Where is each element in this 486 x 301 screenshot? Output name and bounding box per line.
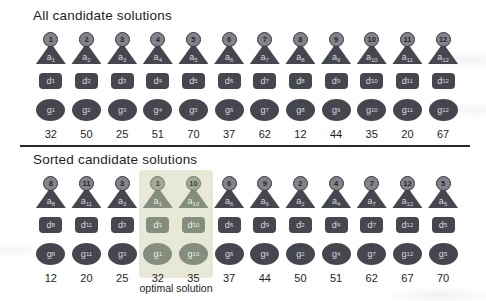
objective-value: 50 bbox=[80, 128, 92, 140]
candidate-id-badge: 11 bbox=[400, 32, 415, 47]
agent-label: a8 bbox=[285, 53, 315, 63]
agent-label: a10 bbox=[178, 197, 208, 207]
candidate-column: 11a11d′11g1120 bbox=[69, 176, 105, 284]
agent-label: a2 bbox=[71, 53, 101, 63]
candidate-row-sorted: 8a8d′8g81211a11d′11g11203a3d′3g3251a1d′1… bbox=[33, 176, 461, 284]
genotype-ellipse: g4 bbox=[322, 243, 351, 265]
candidate-column: 6a6d′6g637 bbox=[211, 176, 247, 284]
genotype-ellipse: g5 bbox=[429, 243, 458, 265]
candidate-id-badge: 3 bbox=[115, 32, 130, 47]
decision-box: d′3 bbox=[111, 217, 134, 233]
agent-label: a1 bbox=[143, 197, 173, 207]
objective-value: 70 bbox=[437, 272, 449, 284]
section-title-all-candidates: All candidate solutions bbox=[33, 8, 172, 23]
decision-box: d′5 bbox=[182, 73, 205, 89]
agent-label: a7 bbox=[250, 53, 280, 63]
decision-box: d′4 bbox=[146, 73, 169, 89]
candidate-id-badge: 6 bbox=[222, 32, 237, 47]
decision-box: d′1 bbox=[146, 217, 169, 233]
genotype-ellipse: g2 bbox=[72, 99, 101, 121]
decision-box: d′12 bbox=[432, 73, 455, 89]
decision-box: d′2 bbox=[289, 217, 312, 233]
genotype-ellipse: g10 bbox=[357, 99, 386, 121]
candidate-column: 2a2d′2g250 bbox=[69, 32, 105, 140]
agent-label: a6 bbox=[214, 197, 244, 207]
agent-label: a8 bbox=[36, 197, 66, 207]
candidate-column: 8a8d′8g812 bbox=[33, 176, 69, 284]
candidate-column: 10a10d′10g1035 bbox=[176, 176, 212, 284]
objective-value: 20 bbox=[401, 128, 413, 140]
genotype-ellipse: g8 bbox=[36, 243, 65, 265]
agent-label: a4 bbox=[143, 53, 173, 63]
candidate-column: 1a1d′1g132 bbox=[33, 32, 69, 140]
objective-value: 12 bbox=[45, 272, 57, 284]
genotype-ellipse: g8 bbox=[286, 99, 315, 121]
candidate-row-all: 1a1d′1g1322a2d′2g2503a3d′3g3254a4d′4g451… bbox=[33, 32, 461, 140]
genotype-ellipse: g7 bbox=[357, 243, 386, 265]
candidate-id-badge: 1 bbox=[150, 176, 165, 191]
decision-box: d′11 bbox=[396, 73, 419, 89]
candidate-column: 5a5d′5g570 bbox=[176, 32, 212, 140]
candidate-id-badge: 9 bbox=[257, 176, 272, 191]
genotype-ellipse: g6 bbox=[215, 243, 244, 265]
agent-label: a12 bbox=[392, 197, 422, 207]
genotype-ellipse: g3 bbox=[108, 243, 137, 265]
section-divider bbox=[20, 145, 470, 147]
candidate-column: 9a9d′9g944 bbox=[247, 176, 283, 284]
candidate-column: 12a12d′12g1267 bbox=[425, 32, 461, 140]
agent-label: a10 bbox=[357, 53, 387, 63]
decision-box: d′2 bbox=[75, 73, 98, 89]
genotype-ellipse: g2 bbox=[286, 243, 315, 265]
decision-box: d′9 bbox=[253, 217, 276, 233]
genotype-ellipse: g12 bbox=[393, 243, 422, 265]
decision-box: d′5 bbox=[432, 217, 455, 233]
objective-value: 35 bbox=[187, 272, 199, 284]
candidate-column: 9a9d′9g944 bbox=[318, 32, 354, 140]
candidate-column: 3a3d′3g325 bbox=[104, 176, 140, 284]
agent-label: a9 bbox=[250, 197, 280, 207]
decision-box: d′8 bbox=[289, 73, 312, 89]
candidate-id-badge: 4 bbox=[329, 176, 344, 191]
agent-label: a11 bbox=[71, 197, 101, 207]
candidate-id-badge: 7 bbox=[364, 176, 379, 191]
genotype-ellipse: g11 bbox=[72, 243, 101, 265]
candidate-id-badge: 6 bbox=[222, 176, 237, 191]
candidate-column: 7a7d′7g762 bbox=[247, 32, 283, 140]
candidate-column: 10a10d′10g1035 bbox=[354, 32, 390, 140]
decision-box: d′8 bbox=[39, 217, 62, 233]
objective-value: 51 bbox=[152, 128, 164, 140]
candidate-column: 7a7d′7g762 bbox=[354, 176, 390, 284]
candidate-id-badge: 11 bbox=[79, 176, 94, 191]
section-title-sorted-candidates: Sorted candidate solutions bbox=[33, 152, 197, 167]
candidate-id-badge: 4 bbox=[150, 32, 165, 47]
candidate-column: 8a8d′8g812 bbox=[283, 32, 319, 140]
decision-box: d′6 bbox=[218, 73, 241, 89]
candidate-id-badge: 3 bbox=[115, 176, 130, 191]
candidate-column: 4a4d′4g451 bbox=[318, 176, 354, 284]
decision-box: d′12 bbox=[396, 217, 419, 233]
genotype-ellipse: g12 bbox=[429, 99, 458, 121]
agent-label: a7 bbox=[357, 197, 387, 207]
genotype-ellipse: g3 bbox=[108, 99, 137, 121]
genotype-ellipse: g10 bbox=[179, 243, 208, 265]
objective-value: 70 bbox=[187, 128, 199, 140]
objective-value: 51 bbox=[330, 272, 342, 284]
agent-label: a5 bbox=[428, 197, 458, 207]
genotype-ellipse: g1 bbox=[36, 99, 65, 121]
candidate-id-badge: 8 bbox=[43, 176, 58, 191]
agent-label: a6 bbox=[214, 53, 244, 63]
objective-value: 62 bbox=[366, 272, 378, 284]
candidate-id-badge: 2 bbox=[293, 176, 308, 191]
objective-value: 25 bbox=[116, 272, 128, 284]
candidate-id-badge: 1 bbox=[43, 32, 58, 47]
objective-value: 25 bbox=[116, 128, 128, 140]
agent-label: a2 bbox=[285, 197, 315, 207]
objective-value: 62 bbox=[259, 128, 271, 140]
decision-box: d′7 bbox=[253, 73, 276, 89]
candidate-id-badge: 10 bbox=[186, 176, 201, 191]
objective-value: 32 bbox=[152, 272, 164, 284]
objective-value: 67 bbox=[401, 272, 413, 284]
candidate-column: 1a1d′1g132 bbox=[140, 176, 176, 284]
agent-label: a11 bbox=[392, 53, 422, 63]
objective-value: 37 bbox=[223, 128, 235, 140]
